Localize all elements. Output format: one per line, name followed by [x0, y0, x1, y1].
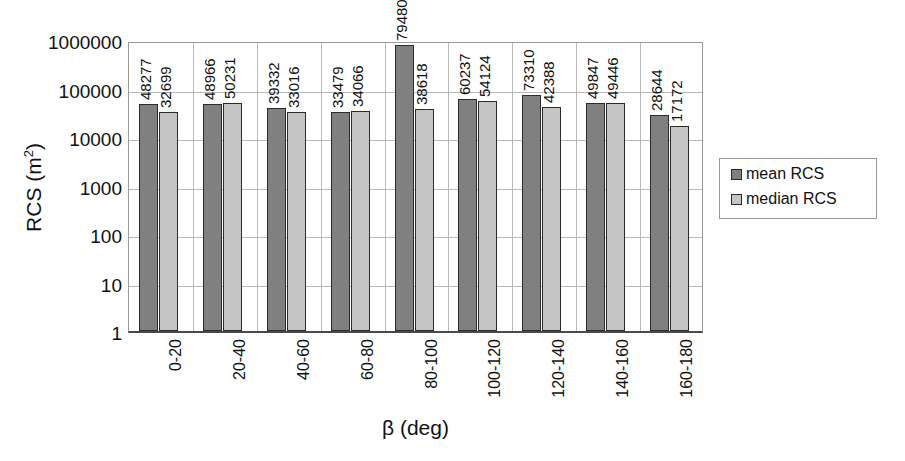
bar-mean[interactable]	[267, 108, 286, 331]
bar-value-label: 49847	[585, 57, 600, 99]
bar-value-label: 42388	[541, 61, 556, 103]
x-axis-tick-labels: 0-2020-4040-6060-8080-100100-120120-1401…	[128, 339, 703, 427]
x-axis-title: β (deg)	[128, 416, 703, 440]
bar-value-label: 49446	[605, 58, 620, 100]
bar-median[interactable]	[223, 103, 242, 331]
bar-value-label: 32699	[158, 66, 173, 108]
legend-item-mean-rcs[interactable]: mean RCS	[731, 166, 876, 182]
bar-value-label: 38618	[414, 63, 429, 105]
bar-value-label: 33016	[286, 66, 301, 108]
bar-median[interactable]	[670, 126, 689, 331]
y-axis-tick-label: 100000	[14, 81, 122, 100]
legend-item-median-rcs[interactable]: median RCS	[731, 191, 876, 207]
bar-mean[interactable]	[650, 115, 669, 331]
rcs-bar-chart: RCS (m2) 1000000100000100001000100101 48…	[0, 0, 905, 461]
bar-mean[interactable]	[331, 112, 350, 331]
bar-mean[interactable]	[395, 45, 414, 331]
bar-median[interactable]	[415, 109, 434, 331]
bar-median[interactable]	[287, 112, 306, 331]
bar-group: 4827732699	[129, 43, 193, 331]
bar-group: 4984749446	[576, 43, 640, 331]
bar-mean[interactable]	[522, 95, 541, 331]
bar-value-label: 794808	[394, 0, 409, 41]
bar-value-label: 54124	[477, 56, 492, 98]
bar-value-label: 33479	[330, 66, 345, 108]
bar-value-label: 28644	[649, 69, 664, 111]
y-axis-tick-label: 10	[14, 275, 122, 294]
chart-legend: mean RCS median RCS	[719, 158, 877, 219]
y-axis-tick-label: 10000	[14, 130, 122, 149]
bar-value-label: 48277	[138, 58, 153, 100]
bar-value-label: 60237	[457, 53, 472, 95]
y-axis-tick-labels: 1000000100000100001000100101	[14, 42, 122, 333]
x-axis-tick-label: 60-80	[360, 339, 376, 380]
legend-swatch-median-rcs	[731, 194, 742, 205]
legend-label-mean-rcs: mean RCS	[746, 166, 824, 182]
bar-group: 6023754124	[448, 43, 512, 331]
x-axis-tick-label: 100-120	[487, 339, 503, 398]
bar-group: 7331042388	[512, 43, 576, 331]
x-axis-tick-label: 160-180	[679, 339, 695, 398]
bar-value-label: 73310	[521, 49, 536, 91]
bar-value-label: 48966	[202, 58, 217, 100]
legend-label-median-rcs: median RCS	[746, 191, 837, 207]
bar-group: 79480838618	[385, 43, 449, 331]
y-axis-tick-label: 100	[14, 227, 122, 246]
bar-value-label: 34066	[350, 65, 365, 107]
bar-group: 4896650231	[193, 43, 257, 331]
x-axis-tick-label: 40-60	[296, 339, 312, 380]
bar-mean[interactable]	[203, 104, 222, 331]
bar-median[interactable]	[606, 103, 625, 331]
x-axis-tick-label: 20-40	[232, 339, 248, 380]
x-axis-tick-label: 80-100	[424, 339, 440, 389]
bar-group: 3933233016	[257, 43, 321, 331]
bar-mean[interactable]	[139, 104, 158, 331]
bar-value-label: 39332	[266, 62, 281, 104]
y-axis-tick-label: 1000000	[14, 33, 122, 52]
bar-value-label: 50231	[222, 57, 237, 99]
bar-mean[interactable]	[458, 99, 477, 331]
bar-median[interactable]	[478, 101, 497, 331]
x-axis-tick-label: 140-160	[615, 339, 631, 398]
x-axis-tick-label: 0-20	[168, 339, 184, 371]
plot-area: 4827732699489665023139332330163347934066…	[128, 42, 703, 333]
bar-mean[interactable]	[586, 103, 605, 331]
bar-value-label: 17172	[669, 80, 684, 122]
y-axis-tick-label: 1000	[14, 178, 122, 197]
bar-median[interactable]	[159, 112, 178, 331]
bar-group: 2864417172	[640, 43, 704, 331]
bar-median[interactable]	[351, 111, 370, 331]
bar-group: 3347934066	[321, 43, 385, 331]
y-axis-tick-label: 1	[14, 324, 122, 343]
bar-median[interactable]	[542, 107, 561, 331]
legend-swatch-mean-rcs	[731, 169, 742, 180]
x-axis-tick-label: 120-140	[551, 339, 567, 398]
